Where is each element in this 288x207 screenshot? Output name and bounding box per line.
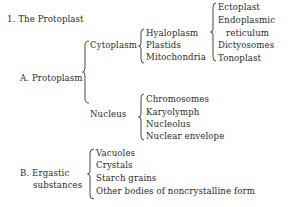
- membrane-item: Tonoplast: [218, 53, 261, 63]
- cytoplasm-item: Plastids: [146, 40, 181, 50]
- ergastic-item: Other bodies of noncrystalline form: [96, 186, 255, 196]
- ergastic-item: Starch grains: [96, 173, 156, 183]
- label-ergastic-line1: B. Ergastic: [20, 168, 69, 178]
- label-protoplasm: A. Protoplasm: [20, 73, 83, 83]
- membrane-item: Endoplasmic: [218, 15, 275, 25]
- nucleus-item: Chromosomes: [146, 94, 209, 104]
- nucleus-item: Nuclear envelope: [146, 131, 224, 141]
- cytoplasm-item: Mitochondria: [146, 52, 206, 62]
- membrane-item: Dictyosomes: [218, 40, 274, 50]
- brace-membranes: [210, 2, 217, 62]
- brace-ergastic: [87, 148, 95, 200]
- cytoplasm-item: Hyaloplasm: [146, 28, 198, 38]
- label-nucleus: Nucleus: [90, 109, 126, 119]
- label-cytoplasm: Cytoplasm: [90, 40, 137, 50]
- label-ergastic-line2: substances: [33, 180, 82, 190]
- brace-protoplasm: [82, 40, 90, 104]
- membrane-item: reticulum: [226, 28, 269, 38]
- brace-nucleus: [138, 93, 145, 141]
- heading-protoplast: 1. The Protoplast: [7, 14, 84, 24]
- membrane-item: Ectoplast: [218, 2, 260, 12]
- nucleus-item: Nucleolus: [146, 119, 190, 129]
- ergastic-item: Vacuoles: [96, 148, 135, 158]
- brace-cytoplasm: [138, 28, 145, 64]
- ergastic-item: Crystals: [96, 160, 132, 170]
- nucleus-item: Karyolymph: [146, 107, 199, 117]
